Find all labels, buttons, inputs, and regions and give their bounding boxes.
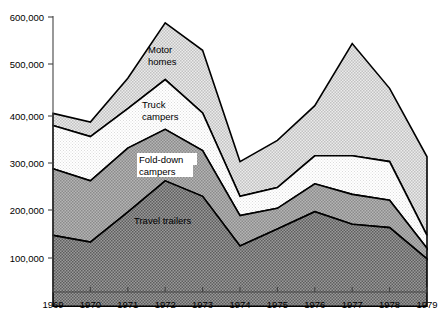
x-axis-tick-label: 1972 bbox=[155, 299, 176, 310]
fold-down-label-line1: Fold-down bbox=[139, 154, 183, 165]
y-axis-tick-label: 500,000 bbox=[10, 59, 44, 70]
x-axis-tick-label: 1971 bbox=[117, 299, 138, 310]
motor-homes-label-line1: Motor bbox=[148, 44, 172, 55]
travel-trailers-label: Travel trailers bbox=[134, 215, 191, 226]
y-axis-tick-label: 400,000 bbox=[10, 111, 44, 122]
x-axis-tick-label: 1973 bbox=[192, 299, 213, 310]
fold-down-label-line2: campers bbox=[139, 166, 176, 177]
x-axis-tick-label: 1978 bbox=[379, 299, 400, 310]
y-axis-tick-label: 100,000 bbox=[10, 253, 44, 264]
x-axis-tick-label: 1975 bbox=[267, 299, 288, 310]
y-axis-tick-labels: 600,000500,000400,000300,000200,000100,0… bbox=[10, 12, 44, 264]
plot-areas bbox=[53, 23, 427, 306]
stacked-area-chart: 600,000500,000400,000300,000200,000100,0… bbox=[0, 0, 443, 333]
x-axis-tick-label: 1976 bbox=[304, 299, 325, 310]
label-fold-down-campers: Fold-down campers bbox=[137, 153, 197, 177]
chart-canvas: 600,000500,000400,000300,000200,000100,0… bbox=[0, 0, 443, 333]
x-axis-tick-label: 1977 bbox=[342, 299, 363, 310]
y-axis-tick-label: 300,000 bbox=[10, 158, 44, 169]
x-axis-tick-label: 1979 bbox=[416, 299, 437, 310]
y-axis-tick-label: 200,000 bbox=[10, 205, 44, 216]
x-axis-tick-label: 1974 bbox=[229, 299, 250, 310]
y-axis-tick-label: 600,000 bbox=[10, 12, 44, 23]
x-axis-tick-label: 1969 bbox=[42, 299, 63, 310]
motor-homes-label-line2: homes bbox=[148, 56, 177, 67]
truck-campers-label-line2: campers bbox=[142, 111, 179, 122]
truck-campers-label-line1: Truck bbox=[142, 99, 166, 110]
x-axis-tick-label: 1970 bbox=[80, 299, 101, 310]
label-travel-trailers: Travel trailers bbox=[134, 215, 191, 226]
